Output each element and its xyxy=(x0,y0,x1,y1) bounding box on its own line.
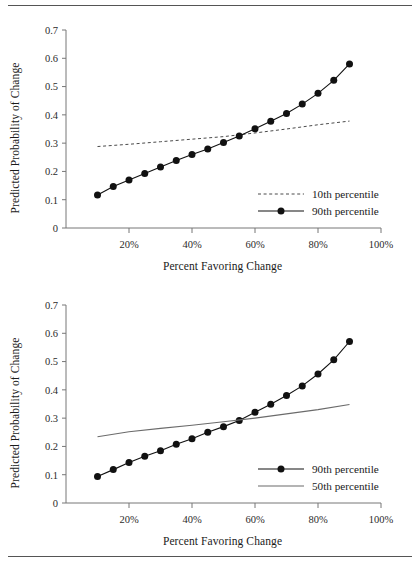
data-point xyxy=(220,139,227,146)
y-tick-label: 0.6 xyxy=(45,328,58,339)
data-point xyxy=(141,453,148,460)
data-point xyxy=(173,157,180,164)
y-tick-label: 0.6 xyxy=(45,53,58,64)
x-tick-label: 80% xyxy=(308,514,328,525)
y-tick-label: 0.7 xyxy=(45,300,58,311)
top-divider-rule xyxy=(8,5,412,6)
y-tick-label: 0.4 xyxy=(45,385,59,396)
y-tick-label: 0.1 xyxy=(45,470,58,481)
data-point xyxy=(110,466,117,473)
data-point xyxy=(330,77,337,84)
x-tick-label: 40% xyxy=(182,514,202,525)
data-point xyxy=(173,441,180,448)
data-point xyxy=(283,110,290,117)
data-point xyxy=(110,183,117,190)
data-point xyxy=(94,473,101,480)
data-point xyxy=(126,459,133,466)
legend-label: 50th percentile xyxy=(312,480,379,492)
x-tick-label: 20% xyxy=(119,514,139,525)
x-tick-label: 20% xyxy=(119,239,139,250)
data-point xyxy=(126,176,133,183)
data-point xyxy=(299,382,306,389)
data-point xyxy=(94,191,101,198)
data-point xyxy=(236,133,243,140)
chart-top: Predicted Probability of Change Percent … xyxy=(0,8,420,288)
x-tick-label: 40% xyxy=(182,239,202,250)
y-tick-label: 0.2 xyxy=(45,441,58,452)
data-point xyxy=(283,392,290,399)
data-point xyxy=(157,163,164,170)
data-point xyxy=(315,90,322,97)
y-tick-label: 0.7 xyxy=(45,25,58,36)
data-point xyxy=(346,338,353,345)
data-point xyxy=(189,435,196,442)
y-tick-label: 0.1 xyxy=(45,195,58,206)
data-point xyxy=(157,447,164,454)
x-tick-label: 60% xyxy=(245,239,265,250)
x-tick-label: 80% xyxy=(308,239,328,250)
clipped-header-text xyxy=(60,0,360,2)
y-tick-label: 0 xyxy=(53,223,58,234)
legend-key-marker xyxy=(278,466,285,473)
y-tick-label: 0.5 xyxy=(45,81,58,92)
data-point xyxy=(252,125,259,132)
x-tick-label: 100% xyxy=(369,514,394,525)
data-point xyxy=(252,409,259,416)
figure-page: Predicted Probability of Change Percent … xyxy=(0,0,420,565)
series-line-90th-percentile xyxy=(98,64,350,195)
y-tick-label: 0.3 xyxy=(45,413,58,424)
data-point xyxy=(315,371,322,378)
data-point xyxy=(204,146,211,153)
legend-label: 90th percentile xyxy=(312,205,379,217)
data-point xyxy=(220,423,227,430)
data-point xyxy=(330,356,337,363)
data-point xyxy=(346,60,353,67)
y-tick-label: 0 xyxy=(53,498,58,509)
legend: 10th percentile90th percentile xyxy=(258,188,379,217)
legend-key-marker xyxy=(278,208,285,215)
legend-label: 90th percentile xyxy=(312,463,379,475)
plot-area-bottom: 00.10.20.30.40.50.60.720%40%60%80%100%90… xyxy=(0,283,420,563)
x-tick-label: 60% xyxy=(245,514,265,525)
series-line-90th-percentile xyxy=(98,341,350,476)
data-point xyxy=(204,429,211,436)
data-point xyxy=(267,401,274,408)
legend-label: 10th percentile xyxy=(312,188,379,200)
data-point xyxy=(299,101,306,108)
y-tick-label: 0.4 xyxy=(45,110,59,121)
y-tick-label: 0.2 xyxy=(45,166,58,177)
legend: 90th percentile50th percentile xyxy=(258,463,379,492)
y-tick-label: 0.3 xyxy=(45,138,58,149)
series-line-50th-percentile xyxy=(98,405,350,437)
data-point xyxy=(267,118,274,125)
plot-area-top: 00.10.20.30.40.50.60.720%40%60%80%100%10… xyxy=(0,8,420,288)
data-point xyxy=(189,151,196,158)
y-tick-label: 0.5 xyxy=(45,356,58,367)
data-point xyxy=(141,170,148,177)
x-tick-label: 100% xyxy=(369,239,394,250)
chart-bottom: Predicted Probability of Change Percent … xyxy=(0,283,420,563)
